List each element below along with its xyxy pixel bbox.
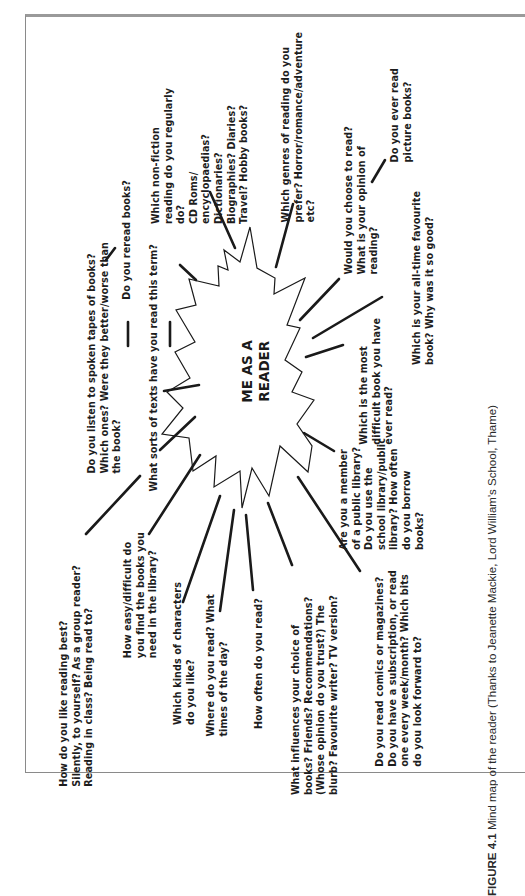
node-comics: Do you read comics or magazines? Do you … bbox=[374, 570, 424, 767]
node-picture-books: Do you ever read picture books? bbox=[389, 68, 414, 162]
figure-caption: FIGURE 4.1 Mind map of the reader (Thank… bbox=[486, 405, 498, 896]
figure-label: FIGURE 4.1 bbox=[486, 833, 498, 896]
node-where-read: Where do you read? What times of the day… bbox=[205, 594, 230, 737]
figure-caption-text: Mind map of the reader (Thanks to Jeanet… bbox=[486, 405, 498, 833]
node-reading-best: How do you like reading best? Silently, … bbox=[58, 565, 96, 787]
node-choose: Would you choose to read? What is your o… bbox=[343, 126, 381, 275]
node-genres: Which genres of reading do you prefer? H… bbox=[280, 32, 318, 222]
node-find-books: How easy/difficult do you find the books… bbox=[122, 532, 160, 658]
center-label: ME AS A READER bbox=[239, 340, 273, 403]
node-non-fiction: Which non-fiction reading do you regular… bbox=[150, 88, 251, 224]
node-how-often: How often do you read? bbox=[253, 598, 266, 729]
node-library: Are you a member of a public library? Do… bbox=[338, 438, 426, 550]
node-characters: Which kinds of characters do you like? bbox=[172, 582, 197, 725]
node-influences: What influences your choice of books? Fr… bbox=[290, 595, 340, 795]
node-favourite: Which is your all-time favourite book? W… bbox=[411, 191, 436, 365]
node-sorts-texts: What sorts of texts have you read this t… bbox=[148, 244, 161, 491]
node-most-difficult: Which is the most difficult book you hav… bbox=[358, 318, 396, 445]
node-tapes: Do you listen to spoken tapes of books? … bbox=[86, 242, 124, 474]
